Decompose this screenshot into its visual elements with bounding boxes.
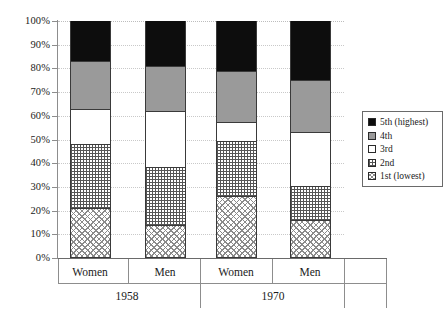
legend-label: 5th (highest): [380, 117, 428, 127]
x-axis-tick-label: Men: [270, 266, 350, 278]
legend-swatch-1st-icon: [368, 172, 376, 180]
bar-segment-s3: [71, 109, 110, 145]
legend-label: 2nd: [380, 158, 394, 168]
axis-group-rule: [58, 283, 200, 284]
legend-swatch-4th-icon: [368, 132, 376, 140]
bar-segment-s2: [71, 144, 110, 208]
y-axis-tick-mark: [52, 116, 58, 117]
x-axis-tick-label: Women: [50, 266, 130, 278]
y-axis-tick-mark: [52, 45, 58, 46]
y-axis-tick-mark: [52, 211, 58, 212]
legend-swatch-2nd-icon: [368, 159, 376, 167]
axis-separator: [58, 259, 59, 284]
y-axis-tick-label: 60%: [4, 111, 50, 121]
legend-label: 1st (lowest): [380, 171, 425, 181]
bar-segment-s3: [146, 111, 185, 167]
legend-item[interactable]: 2nd: [368, 158, 438, 168]
y-axis-tick-label: 30%: [4, 182, 50, 192]
bar-segment-s5: [217, 21, 256, 71]
y-axis-tick-mark: [52, 187, 58, 188]
y-axis-tick-mark: [52, 234, 58, 235]
legend-swatch-3rd-icon: [368, 145, 376, 153]
bar-women-1970[interactable]: [216, 21, 257, 258]
bar-segment-s1: [291, 220, 330, 258]
y-axis-tick-mark: [52, 21, 58, 22]
axis-separator: [128, 259, 129, 284]
y-axis-tick-mark: [52, 68, 58, 69]
bar-segment-s1: [217, 196, 256, 258]
bar-segment-s4: [71, 61, 110, 108]
bar-segment-s5: [71, 21, 110, 61]
y-axis-tick-label: 90%: [4, 40, 50, 50]
plot-area: [58, 21, 344, 258]
y-axis-tick-label: 10%: [4, 229, 50, 239]
legend: 5th (highest) 4th 3rd 2nd 1st (lowest): [362, 111, 443, 187]
bar-men-1958[interactable]: [145, 21, 186, 258]
bar-segment-s2: [146, 167, 185, 225]
y-axis-tick-label: 40%: [4, 158, 50, 168]
y-axis-tick-label: 100%: [4, 16, 50, 26]
y-axis-tick-label: 70%: [4, 87, 50, 97]
bar-segment-s2: [217, 141, 256, 197]
y-axis-tick-mark: [52, 163, 58, 164]
axis-group-rule: [200, 283, 387, 284]
bar-segment-s4: [146, 66, 185, 111]
bar-segment-s1: [146, 225, 185, 258]
bar-women-1958[interactable]: [70, 21, 111, 258]
legend-swatch-5th-icon: [368, 118, 376, 126]
x-axis-tick-label: Men: [125, 266, 205, 278]
x-axis-line: [57, 258, 387, 259]
y-axis-tick-label: 50%: [4, 135, 50, 145]
y-axis-tick-mark: [52, 92, 58, 93]
bar-segment-s3: [217, 122, 256, 141]
legend-label: 3rd: [380, 144, 393, 154]
bar-segment-s2: [291, 186, 330, 220]
bar-segment-s1: [71, 208, 110, 258]
bar-segment-s5: [291, 21, 330, 80]
legend-item[interactable]: 4th: [368, 131, 438, 141]
axis-separator: [272, 259, 273, 284]
bar-segment-s5: [146, 21, 185, 66]
legend-item[interactable]: 5th (highest): [368, 117, 438, 127]
y-axis-tick-label: 20%: [4, 206, 50, 216]
y-axis-tick-mark: [52, 140, 58, 141]
bar-men-1970[interactable]: [290, 21, 331, 258]
x-axis-tick-label: Women: [196, 266, 276, 278]
legend-label: 4th: [380, 131, 392, 141]
y-axis-tick-label: 0%: [4, 253, 50, 263]
stacked-bar-chart: 100%90%80%70%60%50%40%30%20%10%0% WomenM…: [0, 0, 447, 309]
bar-segment-s4: [291, 80, 330, 132]
x-axis-group-label: 1958: [87, 290, 167, 302]
legend-item[interactable]: 3rd: [368, 144, 438, 154]
bar-segment-s3: [291, 132, 330, 185]
y-axis-tick-label: 80%: [4, 63, 50, 73]
legend-item[interactable]: 1st (lowest): [368, 171, 438, 181]
x-axis-group-label: 1970: [233, 290, 313, 302]
bar-segment-s4: [217, 71, 256, 122]
